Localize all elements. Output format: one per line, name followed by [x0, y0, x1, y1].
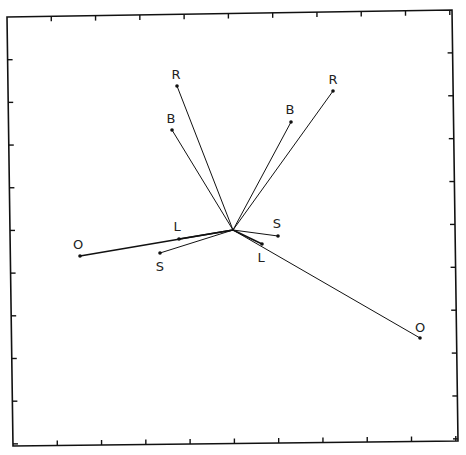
- vector-ray-b-left: [172, 130, 233, 230]
- vector-label-l-left: L: [173, 219, 181, 234]
- vector-label-o-right: O: [415, 320, 425, 335]
- vector-point-s-left: [158, 251, 162, 255]
- vector-point-o-left: [78, 254, 82, 258]
- vector-label-s-left: S: [156, 259, 164, 274]
- vector-point-b-right: [289, 120, 293, 124]
- vector-ray-r-left: [177, 86, 233, 230]
- vector-label-b-right: B: [286, 102, 295, 117]
- axis-ticks: [8, 10, 458, 445]
- vector-label-l-right: L: [257, 250, 265, 265]
- vector-ray-o-right: [233, 230, 420, 338]
- vector-diagram: RBBROLSSLO: [0, 0, 466, 455]
- vector-point-s-right: [276, 234, 280, 238]
- vector-endpoints: [78, 84, 422, 340]
- vector-point-l-right: [260, 242, 264, 246]
- vector-ray-b-right: [233, 122, 291, 230]
- vector-point-r-right: [331, 89, 335, 93]
- vector-label-s-right: S: [273, 216, 281, 231]
- vector-ray-l-left: [179, 230, 233, 239]
- vector-label-r-right: R: [328, 72, 337, 87]
- vector-label-b-left: B: [167, 111, 176, 126]
- vector-ray-r-right: [233, 91, 333, 230]
- vector-label-r-left: R: [171, 67, 180, 82]
- vector-point-l-left: [177, 237, 181, 241]
- vector-point-r-left: [175, 84, 179, 88]
- vector-point-o-right: [418, 336, 422, 340]
- vector-ray-s-left: [160, 230, 233, 253]
- vector-point-b-left: [170, 128, 174, 132]
- vector-rays: [80, 86, 420, 338]
- vector-label-o-left: O: [73, 237, 83, 252]
